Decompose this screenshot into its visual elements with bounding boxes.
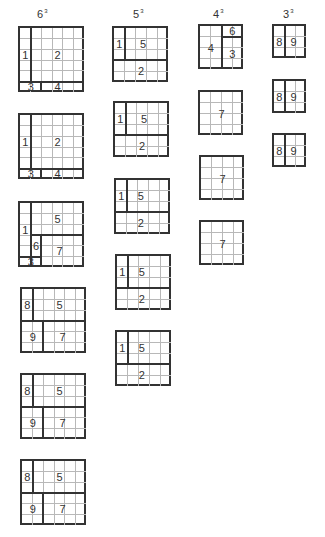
piece-label: 1 — [22, 49, 28, 60]
piece-label: 1 — [117, 114, 123, 125]
cube-6-dissection-grid: 51673 — [18, 201, 84, 267]
base: 5 — [133, 8, 139, 20]
piece-label: 2 — [139, 141, 145, 152]
cell-line — [62, 28, 63, 92]
region-boundary — [40, 169, 42, 180]
piece-label: 7 — [219, 108, 225, 119]
cell-line — [149, 332, 150, 386]
cube-6-dissection-grid: 1234 — [18, 113, 84, 179]
piece-label: 9 — [30, 418, 36, 429]
region-boundary — [30, 28, 32, 82]
piece-label: 3 — [28, 168, 34, 179]
piece-label: 4 — [54, 168, 60, 179]
cell-line — [158, 103, 159, 157]
piece-label: 4 — [54, 81, 60, 92]
piece-label: 1 — [22, 224, 28, 235]
piece-label: 9 — [290, 92, 296, 103]
piece-label: 9 — [290, 146, 296, 157]
piece-label: 8 — [24, 386, 30, 397]
piece-label: 2 — [139, 294, 145, 305]
cube-6-dissection-grid: 8597 — [20, 287, 86, 353]
piece-label: 3 — [229, 49, 235, 60]
piece-label: 2 — [54, 136, 60, 147]
column-title-5-cubed: 53 — [133, 8, 143, 20]
piece-label: 2 — [138, 66, 144, 77]
cube-6-dissection-grid: 1234 — [18, 26, 84, 92]
piece-label: 1 — [116, 39, 122, 50]
cell-line — [135, 28, 136, 82]
cell-line — [159, 180, 160, 234]
cell-line — [148, 180, 149, 234]
base: 6 — [37, 8, 43, 20]
piece-label: 5 — [141, 114, 147, 125]
cell-line — [147, 103, 148, 157]
piece-label: 7 — [60, 418, 66, 429]
cell-line — [62, 115, 63, 179]
region-boundary — [117, 363, 171, 365]
cell-line — [149, 256, 150, 310]
region-boundary — [127, 256, 129, 288]
cube-4-dissection-grid: 7 — [199, 220, 244, 265]
region-boundary — [116, 211, 170, 213]
region-boundary — [32, 375, 34, 407]
piece-label: 1 — [118, 191, 124, 202]
piece-label: 9 — [30, 504, 36, 515]
piece-label: 5 — [54, 214, 60, 225]
region-boundary — [30, 115, 32, 169]
cube-5-dissection-grid: 152 — [112, 26, 168, 82]
cell-line — [233, 222, 234, 265]
cell-line — [201, 254, 244, 255]
region-boundary — [42, 407, 44, 439]
region-boundary — [126, 180, 128, 212]
base: 3 — [283, 8, 289, 20]
cell-line — [201, 189, 244, 190]
cell-line — [73, 115, 74, 179]
piece-label: 5 — [139, 343, 145, 354]
region-boundary — [32, 289, 34, 321]
base: 4 — [213, 8, 219, 20]
region-boundary — [32, 461, 34, 493]
region-boundary — [127, 332, 129, 364]
column-title-4-cubed: 43 — [213, 8, 223, 20]
piece-label: 1 — [22, 136, 28, 147]
piece-label: 8 — [276, 146, 282, 157]
cell-line — [136, 103, 137, 157]
cell-line — [160, 256, 161, 310]
piece-label: 6 — [33, 240, 39, 251]
region-boundary — [31, 234, 85, 236]
cell-line — [232, 92, 233, 135]
cube-4-dissection-grid: 7 — [198, 90, 243, 135]
region-boundary — [42, 493, 44, 525]
piece-label: 7 — [57, 246, 63, 257]
cell-line — [73, 28, 74, 92]
piece-label: 3 — [28, 81, 34, 92]
region-boundary — [22, 406, 86, 408]
piece-label: 4 — [208, 42, 214, 53]
region-boundary — [115, 134, 169, 136]
region-boundary — [284, 26, 286, 58]
piece-label: 9 — [290, 37, 296, 48]
piece-label: 8 — [276, 37, 282, 48]
piece-label: 7 — [220, 238, 226, 249]
exponent: 3 — [140, 8, 143, 14]
cube-3-dissection-grid: 89 — [272, 24, 306, 58]
region-boundary — [40, 235, 42, 267]
region-boundary — [22, 320, 86, 322]
region-boundary — [117, 287, 171, 289]
exponent: 3 — [220, 8, 223, 14]
piece-label: 2 — [139, 370, 145, 381]
piece-label: 2 — [54, 49, 60, 60]
piece-label: 5 — [56, 386, 62, 397]
cell-line — [157, 28, 158, 82]
cell-line — [200, 124, 243, 125]
piece-label: 1 — [119, 343, 125, 354]
piece-label: 1 — [119, 267, 125, 278]
region-boundary — [114, 59, 168, 61]
cube-5-dissection-grid: 152 — [113, 101, 169, 157]
piece-label: 5 — [139, 267, 145, 278]
cell-line — [146, 28, 147, 82]
piece-label: 7 — [60, 504, 66, 515]
column-title-6-cubed: 63 — [37, 8, 47, 20]
cube-5-dissection-grid: 152 — [115, 330, 171, 386]
cube-3-dissection-grid: 89 — [272, 133, 306, 167]
